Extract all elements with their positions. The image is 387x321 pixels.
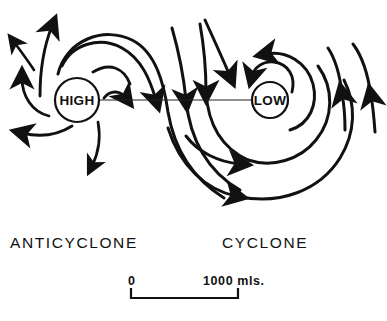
- outflow-arrow-west-upper: [22, 78, 49, 116]
- caption-anticyclone: ANTICYCLONE: [10, 234, 138, 251]
- outflow-arrow-south: [92, 122, 99, 166]
- outflow-arrow-north: [40, 26, 52, 96]
- low-pressure-center: LOW: [252, 82, 288, 118]
- streamline-descend-3: [205, 20, 230, 76]
- outflow-arrow-upper-left: [14, 42, 34, 70]
- scale-end-label: 1000 mls.: [203, 274, 265, 288]
- caption-cyclone: CYCLONE: [222, 234, 308, 251]
- cyclone-rising-2-tail: [353, 44, 371, 96]
- cyclone-rising-1-tail: [328, 48, 342, 94]
- scale-bar-rule: [131, 288, 238, 298]
- high-pressure-center: HIGH: [55, 78, 99, 122]
- outflow-arrow-west-lower: [22, 126, 72, 135]
- cyclone-rising-arrow-2: [371, 96, 375, 132]
- streamline-descend-2-tail: [206, 92, 248, 160]
- high-pressure-label: HIGH: [60, 93, 95, 108]
- streamline-descend-2: [200, 24, 206, 92]
- outflow-curl-arrow: [104, 92, 126, 98]
- cyclone-rising-arrow-1: [342, 94, 345, 130]
- low-pressure-label: LOW: [254, 93, 286, 108]
- diagram-canvas: HIGH LOW ANTICYCLONE CYCLONE 0 1000 mls.: [0, 0, 387, 321]
- streamline-descend-1: [172, 28, 186, 100]
- scale-bar-group: 0 1000 mls.: [128, 274, 265, 298]
- streamline-s-inner: [93, 67, 130, 84]
- cyclone-inflow-group: [168, 44, 375, 199]
- airflow-diagram: HIGH LOW ANTICYCLONE CYCLONE 0 1000 mls.: [0, 0, 387, 321]
- scale-start-label: 0: [128, 274, 136, 288]
